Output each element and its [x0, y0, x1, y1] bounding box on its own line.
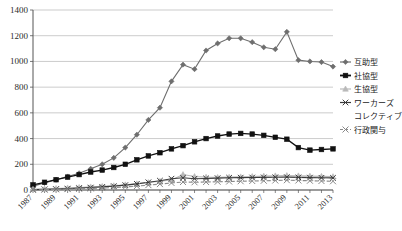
x-tick-label: 1991: [61, 192, 80, 211]
data-point: [88, 170, 93, 175]
x-tick-label: 2011: [292, 192, 311, 211]
x-tick-label: 1995: [108, 192, 127, 211]
data-point: [319, 147, 324, 152]
x-tick-label: 1997: [131, 192, 150, 211]
legend-label: 行政関与: [354, 125, 386, 135]
y-tick-label: 400: [15, 134, 29, 144]
data-point: [77, 172, 82, 177]
data-point: [307, 59, 312, 64]
y-tick-label: 600: [15, 108, 29, 118]
x-tick-label: 2003: [200, 192, 219, 211]
legend-item-1[interactable]: 社協型: [340, 71, 378, 81]
data-point: [227, 36, 232, 41]
data-point: [285, 137, 290, 142]
data-point: [192, 139, 197, 144]
x-tick-label: 1989: [38, 192, 57, 211]
x-tick-label: 2009: [269, 192, 288, 211]
legend-label: 社協型: [354, 71, 378, 81]
data-point: [343, 73, 348, 78]
data-point: [100, 162, 105, 167]
line-chart: 0200400600800100012001400198719891991199…: [0, 0, 402, 231]
data-point: [296, 58, 301, 63]
chart-canvas: 0200400600800100012001400198719891991199…: [0, 0, 402, 231]
data-point: [42, 180, 47, 185]
data-point: [238, 36, 243, 41]
y-tick-label: 1000: [10, 56, 29, 66]
data-point: [330, 178, 336, 184]
legend-label: 生協型: [354, 84, 378, 94]
x-tick-label: 2001: [177, 192, 196, 211]
data-point: [65, 175, 70, 180]
data-point: [100, 168, 105, 173]
series-line: [33, 32, 333, 186]
legend-item-4[interactable]: 行政関与: [340, 125, 386, 135]
data-point: [238, 131, 243, 136]
data-point: [319, 59, 324, 64]
y-tick-label: 800: [15, 82, 29, 92]
data-point: [296, 145, 301, 150]
data-point: [54, 177, 59, 182]
data-point: [192, 67, 197, 72]
x-tick-label: 2005: [223, 192, 242, 211]
data-point: [135, 157, 140, 162]
data-point: [331, 147, 336, 152]
data-point: [330, 64, 335, 69]
data-point: [181, 143, 186, 148]
data-point: [227, 132, 232, 137]
y-tick-label: 200: [15, 159, 29, 169]
y-tick-label: 1400: [10, 5, 29, 15]
legend-label: 互助型: [354, 57, 378, 67]
data-point: [273, 135, 278, 140]
legend-item-0[interactable]: 互助型: [340, 57, 378, 67]
x-tick-label: 1999: [154, 192, 173, 211]
data-point: [123, 162, 128, 167]
series-0: [30, 29, 335, 188]
data-point: [169, 147, 174, 152]
legend-label: ワーカーズ: [354, 98, 394, 108]
data-point: [261, 45, 266, 50]
series-1: [31, 131, 336, 187]
data-point: [215, 134, 220, 139]
legend-label-cont: コレクティブ: [354, 111, 402, 121]
data-point: [215, 41, 220, 46]
data-point: [250, 132, 255, 137]
data-point: [343, 59, 348, 64]
data-point: [203, 48, 208, 53]
legend-item-2[interactable]: 生協型: [340, 84, 378, 94]
data-point: [308, 148, 313, 153]
data-point: [146, 154, 151, 159]
data-point: [111, 165, 116, 170]
data-point: [158, 150, 163, 155]
data-point: [204, 136, 209, 141]
data-point: [261, 133, 266, 138]
x-tick-label: 1993: [85, 192, 104, 211]
x-tick-label: 2013: [315, 192, 334, 211]
x-tick-label: 2007: [246, 192, 265, 211]
y-tick-label: 1200: [10, 31, 29, 41]
x-tick-label: 1987: [15, 192, 34, 211]
data-point: [250, 40, 255, 45]
legend-item-3[interactable]: ワーカーズ: [340, 98, 394, 108]
